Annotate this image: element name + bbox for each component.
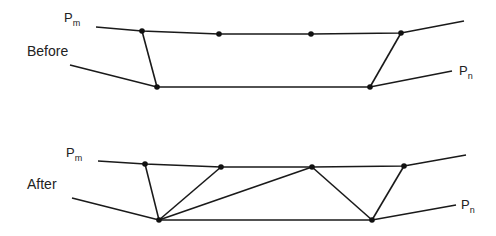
vertex-node-after: [401, 163, 407, 169]
connecting-edge-after: [159, 167, 221, 220]
panel-label-before: Before: [27, 44, 68, 58]
vertex-node-before: [139, 28, 145, 34]
vertex-node-after: [309, 164, 315, 170]
connecting-edge-before: [370, 33, 401, 87]
polyline-diagram: [0, 0, 496, 236]
pn-label-after: Pn: [461, 198, 475, 215]
bottom-curve-after: [72, 198, 456, 220]
pm-label-before: Pm: [64, 11, 80, 28]
panel-label-after: After: [27, 177, 57, 191]
vertex-node-before: [367, 84, 373, 90]
vertex-node-after: [369, 217, 375, 223]
connecting-edge-after: [372, 166, 404, 220]
top-curve-before: [96, 21, 464, 34]
vertex-node-before: [154, 84, 160, 90]
pm-label-after: Pm: [66, 146, 82, 163]
connecting-edge-after: [145, 164, 159, 220]
vertex-node-after: [142, 161, 148, 167]
top-curve-after: [98, 155, 466, 167]
vertex-node-after: [218, 164, 224, 170]
connecting-edge-after: [159, 167, 312, 220]
diagram-root: Before Pm Pn After Pm Pn: [0, 0, 496, 236]
vertex-node-before: [216, 31, 222, 37]
connecting-edge-before: [142, 31, 157, 87]
bottom-curve-before: [70, 65, 452, 87]
vertex-node-after: [156, 217, 162, 223]
vertex-node-before: [308, 31, 314, 37]
pn-label-before: Pn: [459, 64, 473, 81]
connecting-edge-after: [312, 167, 372, 220]
vertex-node-before: [398, 30, 404, 36]
